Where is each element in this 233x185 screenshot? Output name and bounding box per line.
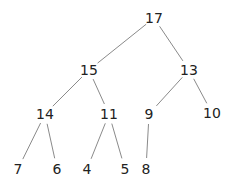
tree-edge-11-4 [91, 123, 105, 159]
tree-edge-9-8 [147, 124, 149, 158]
tree-node-9: 9 [145, 106, 154, 122]
tree-edge-17-15 [98, 24, 147, 63]
tree-node-11: 11 [100, 106, 118, 122]
tree-node-10: 10 [203, 105, 221, 121]
tree-node-5: 5 [121, 161, 130, 177]
tree-edge-14-6 [47, 124, 55, 159]
tree-edge-14-7 [23, 123, 41, 159]
tree-edge-15-14 [53, 77, 82, 106]
tree-edge-15-11 [93, 79, 104, 104]
tree-edge-17-13 [160, 26, 183, 61]
tree-node-14: 14 [36, 106, 54, 122]
tree-node-6: 6 [53, 161, 62, 177]
tree-node-8: 8 [142, 161, 151, 177]
tree-edge-11-5 [112, 124, 122, 159]
tree-edges [23, 24, 207, 159]
tree-diagram: 171513141191076458 [0, 0, 233, 185]
tree-node-15: 15 [80, 62, 98, 78]
tree-edge-13-9 [156, 77, 182, 106]
tree-node-17: 17 [145, 10, 163, 26]
tree-node-4: 4 [83, 161, 92, 177]
tree-edge-13-10 [194, 79, 207, 104]
tree-nodes: 171513141191076458 [14, 10, 221, 177]
tree-node-13: 13 [180, 62, 198, 78]
tree-node-7: 7 [14, 161, 23, 177]
